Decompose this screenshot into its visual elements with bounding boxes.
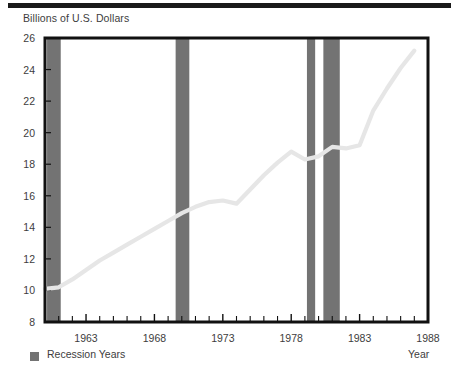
legend-label-recession: Recession Years [47, 348, 125, 360]
y-tick-label: 12 [23, 253, 35, 265]
recession-bands-group [47, 38, 340, 322]
recession-band [307, 38, 315, 322]
x-tick-label: 1983 [348, 332, 372, 344]
legend-swatch-recession [30, 352, 39, 361]
y-tick-label: 18 [23, 158, 35, 170]
axis-tick-labels: 8101214161820222426196319681973197819831… [23, 32, 440, 344]
chart-plot: 8101214161820222426196319681973197819831… [0, 0, 455, 375]
recession-band [176, 38, 190, 322]
plot-frame [45, 38, 428, 322]
y-tick-label: 10 [23, 284, 35, 296]
y-tick-label: 24 [23, 64, 35, 76]
x-tick-label: 1963 [74, 332, 98, 344]
x-tick-label: 1968 [143, 332, 167, 344]
chart-figure: Billions of U.S. Dollars 810121416182022… [0, 0, 455, 375]
x-tick-label: 1978 [280, 332, 304, 344]
y-tick-label: 22 [23, 95, 35, 107]
x-tick-label: 1973 [211, 332, 235, 344]
recession-band [323, 38, 339, 322]
y-tick-label: 16 [23, 190, 35, 202]
data-line-group [45, 51, 414, 289]
x-tick-label: 1988 [416, 332, 440, 344]
axis-ticks-group [45, 70, 428, 322]
data-line [45, 51, 414, 289]
y-tick-label: 20 [23, 127, 35, 139]
x-axis-title: Year [408, 348, 429, 360]
frame-rect [45, 38, 428, 322]
y-tick-label: 26 [23, 32, 35, 44]
y-tick-label: 8 [29, 316, 35, 328]
recession-band [47, 38, 61, 322]
y-tick-label: 14 [23, 221, 35, 233]
